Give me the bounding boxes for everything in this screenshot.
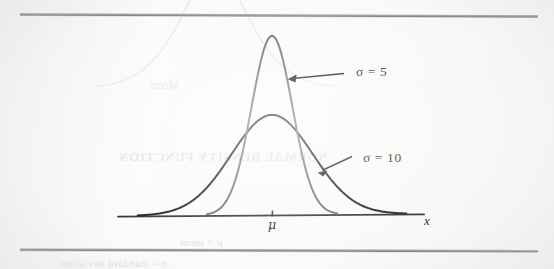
curve-sigma-5 (207, 36, 337, 214)
normal-distribution-chart (0, 0, 554, 269)
arrow-sigma-10 (318, 157, 352, 177)
label-x-axis: x (424, 213, 430, 229)
arrow-sigma-5 (288, 74, 345, 83)
label-mu: μ (268, 217, 276, 232)
label-sigma-10: σ = 10 (363, 150, 402, 166)
label-sigma-5: σ = 5 (356, 64, 387, 80)
figure-page: Mean NORMAL DENSITY FUNCTION μ = mean σ … (0, 0, 554, 269)
